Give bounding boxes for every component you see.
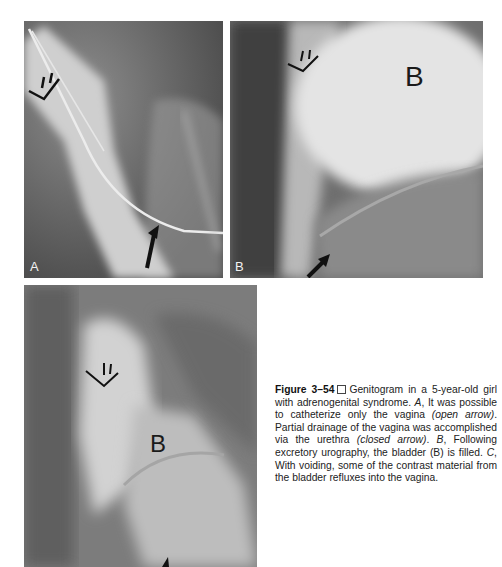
- bladder-label-b: B: [405, 61, 424, 93]
- figure-caption: Figure 3–54Genitogram in a 5-year-old gi…: [275, 384, 497, 485]
- xray-image-b: [230, 21, 483, 278]
- caption-a-text-3: .: [426, 434, 429, 445]
- xray-image-a: [24, 21, 223, 278]
- xray-panel-b: B B: [230, 21, 483, 278]
- square-box-icon: [337, 385, 346, 394]
- caption-c-label: C: [487, 447, 494, 458]
- panel-label-a: A: [30, 259, 39, 274]
- panel-label-b: B: [235, 259, 244, 274]
- xray-panel-a: A: [24, 21, 223, 278]
- bladder-label-c: B: [150, 430, 166, 458]
- figure-number: Figure 3–54: [275, 384, 334, 395]
- xray-image-c: [24, 285, 257, 567]
- caption-open-arrow-note: (open arrow): [432, 409, 494, 420]
- caption-closed-arrow-note: (closed arrow): [357, 434, 427, 445]
- xray-panel-c: B: [24, 285, 257, 567]
